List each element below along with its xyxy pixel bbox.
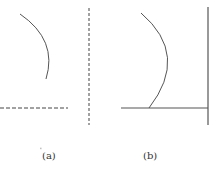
panel-a-curve — [20, 14, 49, 79]
panel-a-label: (a) — [42, 150, 56, 161]
panel-b-label: (b) — [143, 150, 157, 161]
panel-b-curve — [141, 13, 168, 108]
diagram-canvas — [0, 0, 216, 170]
